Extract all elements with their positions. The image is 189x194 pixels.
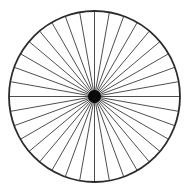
wheel-diagram (0, 0, 189, 194)
wheel-hub (88, 90, 101, 103)
wheel-figure-canvas (0, 0, 189, 194)
